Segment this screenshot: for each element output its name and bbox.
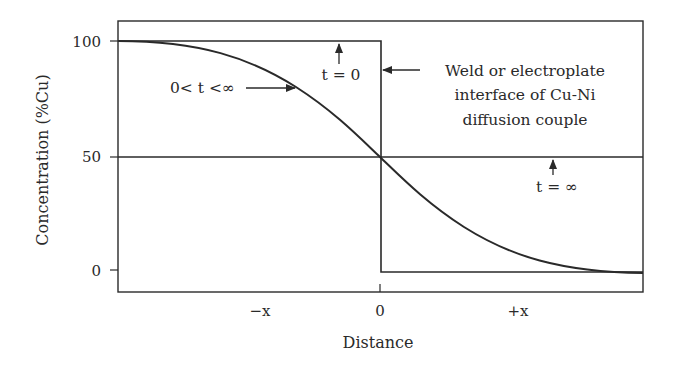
annotation-t-intermediate: 0< t <∞ xyxy=(170,79,235,97)
y-tick-label-50: 50 xyxy=(82,148,101,166)
y-tick-label-100: 100 xyxy=(72,33,101,51)
interface-line-3: diffusion couple xyxy=(462,111,587,129)
x-tick-label-zero: 0 xyxy=(375,302,385,320)
x-tick-label-neg: −x xyxy=(249,302,271,320)
x-axis-title: Distance xyxy=(343,333,414,352)
diffusion-chart: 100 50 0 −x 0 +x Distance Concentration … xyxy=(0,0,675,366)
x-tick-label-pos: +x xyxy=(507,302,529,320)
y-axis-title: Concentration (%Cu) xyxy=(33,74,52,245)
annotation-t-infinity: t = ∞ xyxy=(536,178,578,196)
interface-line-1: Weld or electroplate xyxy=(445,62,605,80)
annotation-t-zero: t = 0 xyxy=(322,66,361,84)
annotation-interface: Weld or electroplate interface of Cu-Ni … xyxy=(445,62,605,129)
y-axis-ticks xyxy=(110,41,118,270)
interface-line-2: interface of Cu-Ni xyxy=(454,86,595,104)
y-tick-label-0: 0 xyxy=(91,262,101,280)
